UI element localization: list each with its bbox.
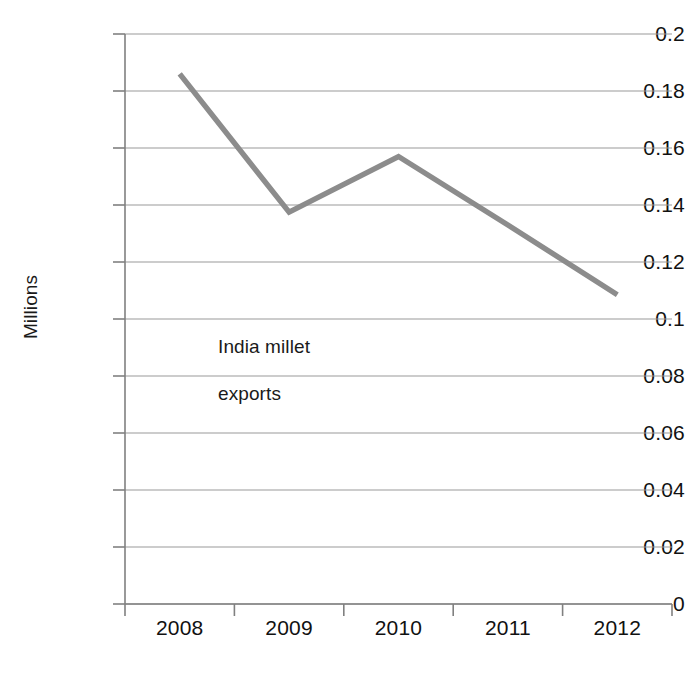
annotation-line-2: exports [218, 383, 281, 405]
gridlines [125, 34, 672, 604]
y-axis-tick-marks [113, 34, 125, 604]
line-chart: Millions 0.20.180.160.140.120.10.080.060… [0, 0, 685, 677]
annotation-line-1: India millet [218, 336, 310, 358]
plot-area [0, 0, 685, 677]
x-axis-tick-marks [125, 604, 672, 616]
